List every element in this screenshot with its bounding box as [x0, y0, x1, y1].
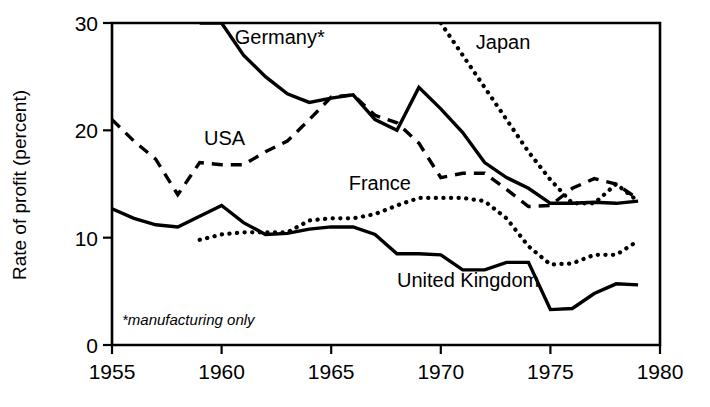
japan-label: Japan [476, 31, 531, 53]
y-tick-label: 20 [75, 119, 98, 142]
germany-label: Germany* [235, 26, 325, 48]
y-axis-title: Rate of profit (percent) [9, 90, 30, 280]
x-tick-label: 1970 [417, 360, 464, 383]
x-tick-label: 1955 [89, 360, 136, 383]
france-label: France [349, 172, 411, 194]
x-tick-label: 1975 [527, 360, 574, 383]
x-tick-label: 1965 [308, 360, 355, 383]
y-tick-label: 10 [75, 227, 98, 250]
usa-label: USA [204, 127, 246, 149]
rate-of-profit-chart: 0 10 20 30 1955 1960 1965 1970 1975 1980… [0, 0, 710, 407]
y-tick-label: 0 [86, 334, 98, 357]
footnote: *manufacturing only [122, 311, 256, 328]
uk-label: United Kingdom [397, 269, 539, 291]
x-tick-label: 1980 [637, 360, 684, 383]
y-tick-label: 30 [75, 12, 98, 35]
chart-canvas: 0 10 20 30 1955 1960 1965 1970 1975 1980… [0, 0, 710, 407]
x-tick-label: 1960 [198, 360, 245, 383]
